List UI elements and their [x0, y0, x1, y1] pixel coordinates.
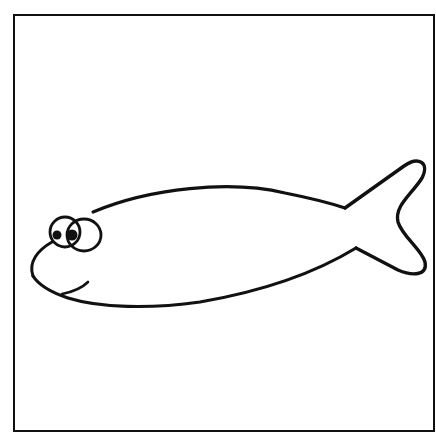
fish-pupil-back — [53, 231, 62, 240]
fish-head-front — [32, 242, 52, 276]
fish-pupil-front — [67, 230, 78, 241]
fish-tail — [345, 161, 425, 274]
fish-mouth — [62, 282, 88, 294]
fish-body-bottom — [33, 248, 356, 307]
fish-body-top — [93, 187, 345, 212]
fish-illustration — [0, 0, 436, 446]
